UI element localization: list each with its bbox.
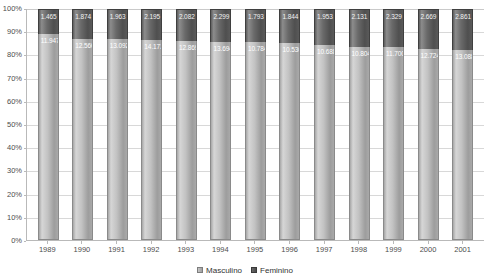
bar-value-label-feminino: 1.793 (248, 13, 264, 20)
legend-label-feminino: Feminino (260, 266, 293, 275)
bar-column[interactable]: 1.96313.092 (107, 9, 128, 240)
bar-column[interactable]: 1.79310.784 (245, 9, 266, 240)
x-axis-tick-label: 1996 (279, 245, 300, 259)
bar-value-label-masculino: 12.560 (75, 42, 93, 49)
bar-segment-feminino[interactable]: 1.963 (107, 9, 128, 39)
bar-column[interactable]: 2.66912.724 (418, 9, 439, 240)
x-axis-tick-label: 1998 (348, 245, 369, 259)
x-axis-tick-label: 1992 (141, 245, 162, 259)
bar-column[interactable]: 2.86113.088 (452, 9, 473, 240)
bar-value-label-masculino: 13.092 (110, 42, 128, 49)
y-axis-tick-label: 80% (0, 51, 22, 59)
bar-value-label-feminino: 2.195 (144, 13, 160, 20)
legend-label-masculino: Masculino (206, 266, 242, 275)
bar-value-label-masculino: 12.869 (179, 44, 197, 51)
bar-column[interactable]: 1.95310.688 (314, 9, 335, 240)
y-axis-tick-label: 10% (0, 214, 22, 222)
y-axis-tick-label: 50% (0, 121, 22, 129)
bar-segment-feminino[interactable]: 1.953 (314, 9, 335, 45)
x-axis-tick-label: 2000 (418, 245, 439, 259)
bar-value-label-masculino: 10.530 (282, 46, 300, 53)
bar-segment-feminino[interactable]: 1.874 (72, 9, 93, 39)
bar-group: 1.46511.9471.87412.5601.96313.0922.19514… (27, 9, 484, 240)
bar-column[interactable]: 2.32911.700 (383, 9, 404, 240)
bar-segment-feminino[interactable]: 1.465 (38, 9, 59, 34)
y-axis-tick-label: 40% (0, 144, 22, 152)
x-axis-tick-label: 2001 (452, 245, 473, 259)
legend-item-masculino[interactable]: Masculino (197, 266, 242, 275)
bar-segment-masculino[interactable]: 12.724 (418, 49, 439, 240)
bar-segment-masculino[interactable]: 11.700 (383, 47, 404, 240)
bar-value-label-feminino: 2.299 (213, 13, 229, 20)
y-axis-tick-label: 30% (0, 167, 22, 175)
y-axis-tick-label: 60% (0, 98, 22, 106)
bar-value-label-masculino: 13.694 (213, 45, 231, 52)
bar-column[interactable]: 2.08212.869 (176, 9, 197, 240)
bar-segment-masculino[interactable]: 14.172 (141, 40, 162, 240)
bar-value-label-feminino: 2.131 (352, 13, 368, 20)
bar-segment-masculino[interactable]: 12.869 (176, 41, 197, 240)
bar-segment-masculino[interactable]: 10.784 (245, 42, 266, 240)
y-axis-tick-label: 70% (0, 75, 22, 83)
x-axis-tick-label: 1993 (175, 245, 196, 259)
bar-segment-feminino[interactable]: 2.299 (210, 9, 231, 42)
bar-segment-masculino[interactable]: 11.947 (38, 34, 59, 240)
legend-item-feminino[interactable]: Feminino (251, 266, 293, 275)
bar-value-label-feminino: 2.669 (421, 13, 437, 20)
bar-column[interactable]: 1.84410.530 (279, 9, 300, 240)
x-axis-tick-label: 1995 (244, 245, 265, 259)
bar-segment-feminino[interactable]: 1.793 (245, 9, 266, 42)
bar-column[interactable]: 2.13110.804 (349, 9, 370, 240)
bar-segment-feminino[interactable]: 1.844 (279, 9, 300, 43)
bar-value-label-feminino: 1.963 (110, 13, 126, 20)
bar-value-label-feminino: 2.082 (179, 13, 195, 20)
bar-value-label-feminino: 1.465 (41, 13, 57, 20)
bar-segment-masculino[interactable]: 10.530 (279, 43, 300, 240)
bar-value-label-masculino: 11.700 (386, 50, 404, 57)
bar-value-label-masculino: 10.784 (248, 45, 266, 52)
x-axis-tick-label: 1991 (106, 245, 127, 259)
legend: Masculino Feminino (0, 263, 490, 277)
bar-column[interactable]: 1.87412.560 (72, 9, 93, 240)
bar-column[interactable]: 1.46511.947 (38, 9, 59, 240)
bar-segment-masculino[interactable]: 10.688 (314, 45, 335, 240)
bar-value-label-feminino: 1.953 (317, 13, 333, 20)
legend-swatch-masculino (197, 267, 203, 273)
bar-segment-feminino[interactable]: 2.329 (383, 9, 404, 47)
y-axis-tick-label: 20% (0, 191, 22, 199)
bar-value-label-feminino: 1.874 (75, 13, 91, 20)
bar-segment-masculino[interactable]: 12.560 (72, 39, 93, 240)
bar-value-label-feminino: 2.861 (455, 13, 471, 20)
bar-value-label-masculino: 13.088 (455, 53, 473, 60)
x-axis: 1989199019911992199319941995199619971998… (26, 245, 484, 259)
bar-segment-masculino[interactable]: 13.694 (210, 42, 231, 240)
bar-value-label-masculino: 10.804 (352, 50, 370, 57)
y-axis-tick-label: 100% (0, 5, 22, 13)
x-axis-tick-label: 1989 (37, 245, 58, 259)
bar-segment-feminino[interactable]: 2.131 (349, 9, 370, 47)
bar-value-label-feminino: 2.329 (386, 13, 402, 20)
bar-segment-feminino[interactable]: 2.861 (452, 9, 473, 50)
x-axis-tick-label: 1990 (71, 245, 92, 259)
bar-segment-masculino[interactable]: 13.092 (107, 39, 128, 240)
bar-value-label-feminino: 1.844 (282, 13, 298, 20)
chart-container: 100%90%80%70%60%50%40%30%20%10%0% 1.4651… (0, 0, 490, 280)
y-axis-tick-label: 0% (0, 237, 22, 245)
x-axis-tick-label: 1999 (383, 245, 404, 259)
bar-segment-feminino[interactable]: 2.669 (418, 9, 439, 49)
bar-value-label-masculino: 10.688 (317, 48, 335, 55)
bar-value-label-masculino: 14.172 (144, 43, 162, 50)
bar-segment-feminino[interactable]: 2.082 (176, 9, 197, 41)
x-axis-tick-label: 1994 (210, 245, 231, 259)
bar-value-label-masculino: 11.947 (41, 37, 59, 44)
y-axis: 100%90%80%70%60%50%40%30%20%10%0% (0, 0, 24, 241)
plot-area: 1.46511.9471.87412.5601.96313.0922.19514… (26, 9, 484, 241)
bar-segment-feminino[interactable]: 2.195 (141, 9, 162, 40)
bar-column[interactable]: 2.19514.172 (141, 9, 162, 240)
x-axis-tick-label: 1997 (314, 245, 335, 259)
bar-value-label-masculino: 12.724 (421, 52, 439, 59)
bar-segment-masculino[interactable]: 10.804 (349, 47, 370, 240)
bar-segment-masculino[interactable]: 13.088 (452, 50, 473, 240)
y-axis-tick-label: 90% (0, 28, 22, 36)
bar-column[interactable]: 2.29913.694 (210, 9, 231, 240)
